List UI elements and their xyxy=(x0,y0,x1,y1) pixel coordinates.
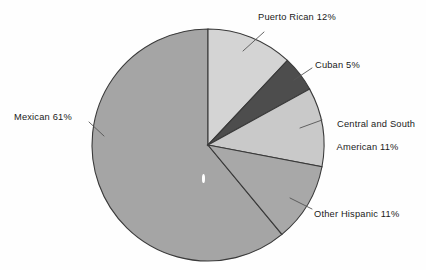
slice-label-other-hispanic: Other Hispanic 11% xyxy=(314,209,399,220)
slice-label-central-and-south-american-line2: American 11% xyxy=(337,142,399,152)
scan-artifact-speck xyxy=(202,174,205,183)
pie-chart-figure: Puerto Rican 12% Cuban 5% Central and So… xyxy=(0,0,426,270)
slice-label-central-and-south-american-line1: Central and South xyxy=(337,119,415,129)
slice-label-puerto-rican: Puerto Rican 12% xyxy=(258,12,336,23)
slice-label-central-and-south-american: Central and South American 11% xyxy=(326,108,415,164)
pie-slices xyxy=(92,29,324,261)
slice-label-mexican: Mexican 61% xyxy=(14,112,72,123)
slice-label-cuban: Cuban 5% xyxy=(315,60,360,71)
